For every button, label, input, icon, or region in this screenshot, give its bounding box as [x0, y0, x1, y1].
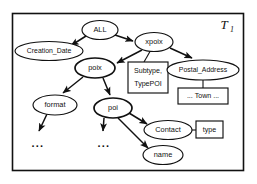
node-typepoi-label: TypePOI: [134, 80, 162, 88]
node-postal-address-label: Postal_Address: [179, 66, 228, 74]
node-xpoix-label: xpoix: [145, 37, 163, 46]
ellipsis-under-poi: ...: [98, 137, 111, 149]
edge-all-xpoix: [115, 35, 133, 41]
node-creation-date[interactable]: Creation_Date: [15, 42, 83, 61]
node-town-box[interactable]: ... Town ...: [178, 88, 228, 104]
edge-poi-contact: [129, 113, 147, 124]
tree-label-base: T: [220, 17, 228, 32]
edge-format-ellipsis: [39, 114, 47, 131]
node-subtype-typepoi-box[interactable]: Subtype, TypePOI: [128, 62, 168, 93]
edge-xpoix-postal-address: [170, 48, 192, 58]
node-type-label: type: [203, 126, 216, 134]
node-poix-label: poix: [88, 63, 102, 72]
edge-xpoix-subtype-box: [144, 52, 150, 63]
nodes-layer: ALL Creation_Date xpoix poix Subtype,: [15, 21, 239, 165]
node-poi-label: poi: [108, 103, 118, 112]
node-poix[interactable]: poix: [75, 58, 115, 78]
node-postal-address[interactable]: Postal_Address: [167, 60, 239, 80]
tree-label-subscript: 1: [230, 25, 234, 34]
diagram-canvas: ALL Creation_Date xpoix poix Subtype,: [0, 0, 257, 184]
node-format-label: format: [45, 100, 66, 109]
edge-poi-ellipsis: [103, 118, 104, 131]
ellipsis-under-format: ...: [32, 137, 45, 149]
tree-diagram: ALL Creation_Date xpoix poix Subtype,: [0, 0, 257, 184]
node-format[interactable]: format: [33, 95, 77, 115]
node-type-box[interactable]: type: [196, 121, 223, 138]
edge-poix-poi: [103, 78, 110, 95]
node-all-label: ALL: [93, 25, 106, 34]
node-subtype-label: Subtype,: [134, 67, 162, 75]
node-creation-date-label: Creation_Date: [27, 47, 72, 55]
node-poi[interactable]: poi: [94, 98, 132, 118]
node-xpoix[interactable]: xpoix: [135, 33, 173, 52]
node-all[interactable]: ALL: [82, 21, 118, 40]
node-contact[interactable]: Contact: [144, 121, 192, 140]
edge-poix-format: [63, 77, 83, 93]
node-name[interactable]: name: [143, 146, 183, 165]
node-name-label: name: [154, 150, 173, 159]
edge-xpoix-poix: [117, 50, 142, 63]
node-contact-label: Contact: [155, 125, 180, 134]
tree-label: T 1: [220, 17, 234, 34]
node-town-label: ... Town ...: [187, 92, 219, 100]
